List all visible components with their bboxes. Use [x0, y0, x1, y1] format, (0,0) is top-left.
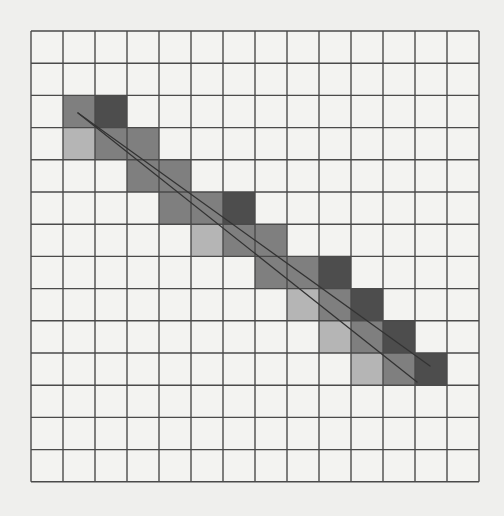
shaded-cell-light: [191, 224, 223, 256]
shaded-cell-dark: [383, 321, 415, 353]
shaded-cell-light: [63, 128, 95, 160]
shaded-cell-dark: [415, 353, 447, 385]
shaded-cell-medium: [95, 128, 127, 160]
shaded-cell-medium: [159, 160, 191, 192]
shaded-cell-medium: [351, 321, 383, 353]
raster-grid-canvas: [0, 0, 504, 516]
shaded-cell-medium: [287, 256, 319, 288]
shaded-cell-dark: [351, 289, 383, 321]
shaded-cell-dark: [223, 192, 255, 224]
shaded-cell-medium: [159, 192, 191, 224]
shaded-cell-light: [287, 289, 319, 321]
pixel-grid-diagram: [0, 0, 504, 516]
shaded-cell-dark: [95, 95, 127, 127]
shaded-cell-medium: [255, 256, 287, 288]
shaded-cell-medium: [383, 353, 415, 385]
shaded-cell-dark: [319, 256, 351, 288]
shaded-cell-medium: [319, 289, 351, 321]
shaded-cell-medium: [191, 192, 223, 224]
shaded-cell-light: [351, 353, 383, 385]
